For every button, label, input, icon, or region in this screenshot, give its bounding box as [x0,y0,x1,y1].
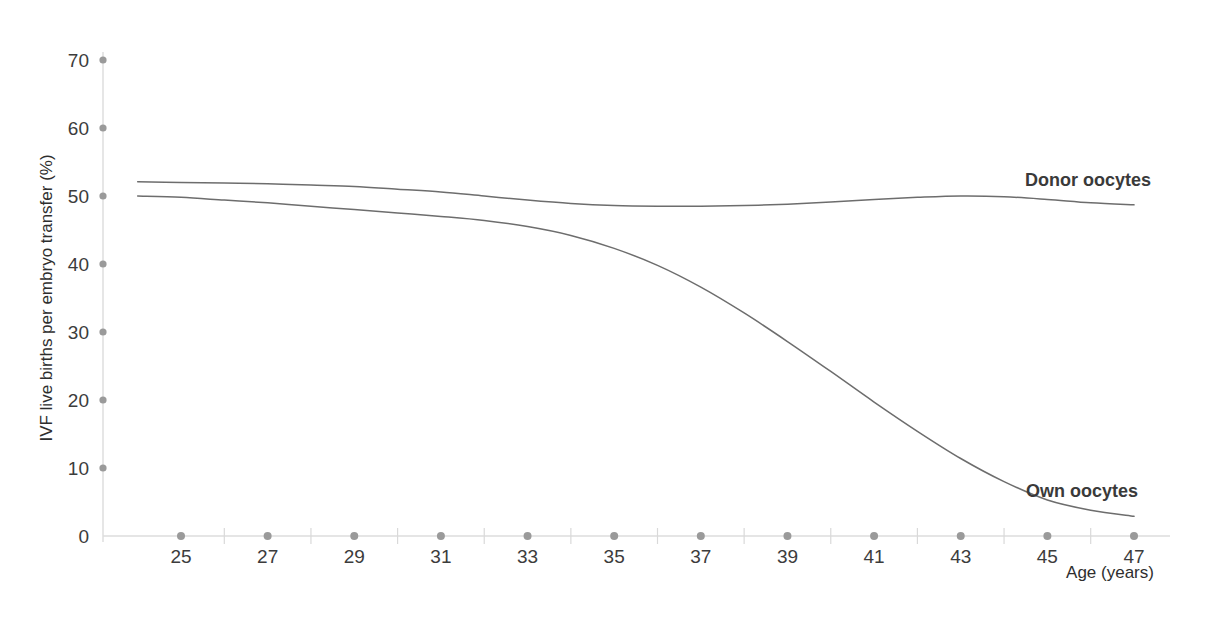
x-tick-dot [610,532,618,540]
x-tick-label: 43 [950,546,971,567]
x-tick-label: 33 [517,546,538,567]
x-tick-dot [177,532,185,540]
series-inline-labels: Donor oocytesOwn oocytes [1025,170,1151,501]
y-tick-dot [99,464,106,471]
x-tick-label: 45 [1037,546,1058,567]
series-curve-own-oocytes [138,196,1134,516]
y-tick-dot [99,396,106,403]
x-axis-title: Age (years) [1066,563,1154,582]
x-tick-dot [264,532,272,540]
x-tick-dot [697,532,705,540]
x-tick-label: 37 [690,546,711,567]
data-series-curves [138,182,1134,517]
y-tick-label: 0 [78,526,89,547]
series-label-donor-oocytes: Donor oocytes [1025,170,1151,190]
x-tick-dot [1130,532,1138,540]
y-tick-dot [99,124,106,131]
x-tick-label: 35 [604,546,625,567]
chart-container: 010203040506070 252729313335373941434547… [0,0,1212,618]
x-tick-dot [783,532,791,540]
y-tick-label: 50 [68,186,89,207]
x-tick-dot [957,532,965,540]
y-tick-label: 70 [68,50,89,71]
y-tick-label: 20 [68,390,89,411]
x-tick-dot [350,532,358,540]
x-tick-label: 25 [170,546,191,567]
y-axis-tick-labels: 010203040506070 [68,50,89,547]
series-label-own-oocytes: Own oocytes [1026,481,1138,501]
y-axis-title: IVF live births per embryo transfer (%) [37,154,56,441]
x-tick-dot [437,532,445,540]
x-tick-label: 39 [777,546,798,567]
x-axis-tick-labels: 252729313335373941434547 [170,546,1144,567]
y-tick-label: 30 [68,322,89,343]
x-tick-dot [870,532,878,540]
y-tick-dot [99,192,106,199]
x-tick-label: 31 [430,546,451,567]
line-chart: 010203040506070 252729313335373941434547… [0,0,1212,618]
y-tick-dot [99,260,106,267]
x-tick-label: 27 [257,546,278,567]
y-tick-label: 60 [68,118,89,139]
y-tick-label: 40 [68,254,89,275]
y-tick-label: 10 [68,458,89,479]
y-tick-dot [99,56,106,63]
x-tick-dot [1043,532,1051,540]
x-tick-dot [524,532,532,540]
x-tick-label: 41 [864,546,885,567]
x-tick-label: 29 [344,546,365,567]
series-curve-donor-oocytes [138,182,1134,207]
y-tick-dot [99,328,106,335]
